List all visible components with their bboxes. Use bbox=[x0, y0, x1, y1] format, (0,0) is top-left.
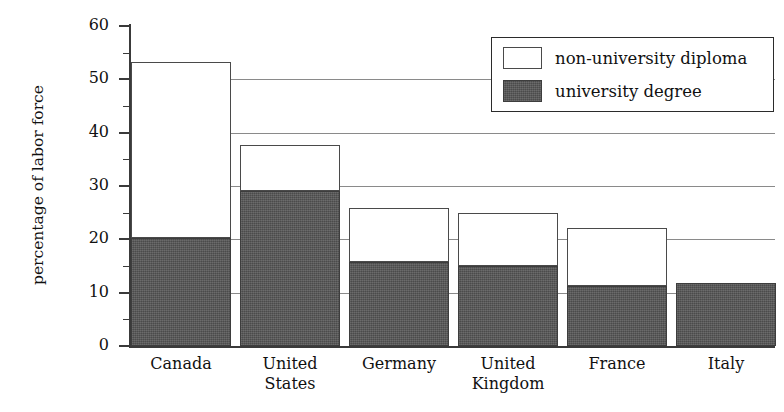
category-label-line: United bbox=[228, 354, 352, 374]
category-label-line: Kingdom bbox=[446, 374, 570, 394]
segment-university-degree bbox=[458, 266, 558, 346]
category-label: Germany bbox=[337, 354, 461, 374]
legend: non-university diploma university degree bbox=[491, 37, 774, 112]
bar-italy bbox=[676, 283, 776, 346]
bar-united-states bbox=[240, 145, 340, 346]
segment-university-degree bbox=[240, 191, 340, 346]
category-label-line: France bbox=[555, 354, 679, 374]
segment-non-university-diploma bbox=[131, 62, 231, 239]
category-label: UnitedKingdom bbox=[446, 354, 570, 394]
category-label-line: Canada bbox=[119, 354, 243, 374]
bar-united-kingdom bbox=[458, 213, 558, 346]
white-swatch-icon bbox=[503, 47, 542, 69]
category-label: Italy bbox=[664, 354, 784, 374]
dark-swatch-icon bbox=[503, 80, 542, 102]
legend-label: non-university diploma bbox=[555, 49, 747, 68]
category-label: Canada bbox=[119, 354, 243, 374]
segment-university-degree bbox=[349, 262, 449, 346]
segment-university-degree bbox=[676, 283, 776, 346]
bar-france bbox=[567, 228, 667, 346]
category-label-line: States bbox=[228, 374, 352, 394]
segment-university-degree bbox=[131, 238, 231, 346]
category-label-line: Germany bbox=[337, 354, 461, 374]
legend-item-university-degree: university degree bbox=[503, 78, 702, 104]
legend-label: university degree bbox=[555, 82, 702, 101]
segment-non-university-diploma bbox=[567, 228, 667, 286]
legend-item-non-university-diploma: non-university diploma bbox=[503, 45, 747, 71]
bar-germany bbox=[349, 208, 449, 346]
bar-chart: percentage of labor force 0102030405060 … bbox=[0, 0, 784, 412]
segment-non-university-diploma bbox=[458, 213, 558, 266]
segment-university-degree bbox=[567, 286, 667, 346]
segment-non-university-diploma bbox=[240, 145, 340, 191]
segment-non-university-diploma bbox=[349, 208, 449, 262]
category-label: France bbox=[555, 354, 679, 374]
category-label-line: United bbox=[446, 354, 570, 374]
bar-canada bbox=[131, 62, 231, 346]
category-label-line: Italy bbox=[664, 354, 784, 374]
category-label: UnitedStates bbox=[228, 354, 352, 394]
